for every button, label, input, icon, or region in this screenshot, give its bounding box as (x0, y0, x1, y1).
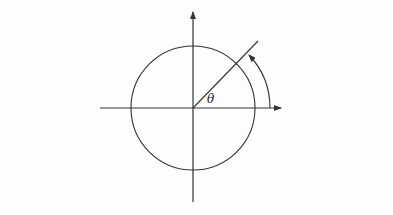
unit-circle-diagram: θ (0, 0, 393, 215)
angle-arc-arrow (249, 55, 270, 108)
theta-label: θ (207, 92, 215, 106)
radial-line (193, 41, 258, 108)
